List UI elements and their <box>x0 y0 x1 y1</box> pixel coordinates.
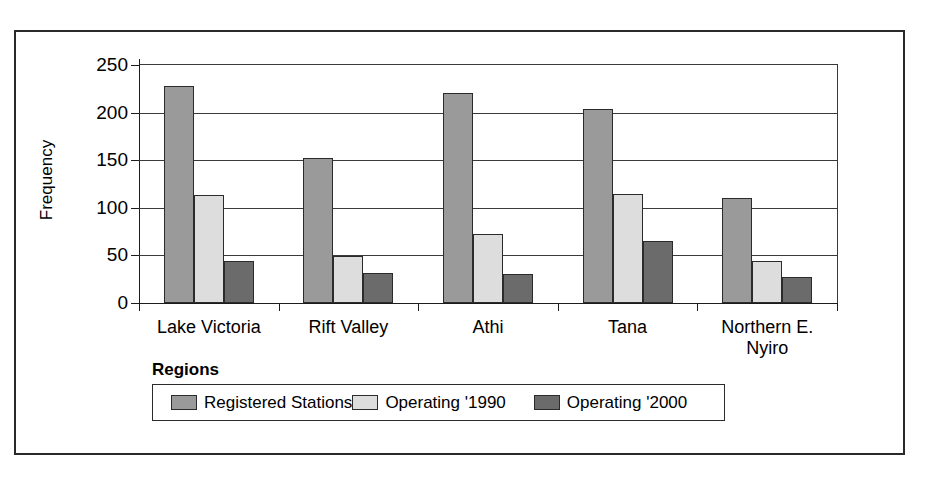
y-tick-label: 0 <box>117 293 128 312</box>
x-category-label: Tana <box>558 317 698 338</box>
bar <box>363 273 393 303</box>
bar <box>443 93 473 303</box>
plot-area: Lake VictoriaRift ValleyAthiTanaNorthern… <box>139 64 838 303</box>
bar <box>164 86 194 303</box>
y-axis-line <box>139 59 140 309</box>
y-tick-mark <box>131 208 139 209</box>
bar <box>194 195 224 303</box>
bar <box>782 277 812 303</box>
x-axis-line <box>131 303 837 304</box>
bar <box>333 256 363 303</box>
gridline <box>139 160 837 161</box>
x-tick-mark <box>279 303 280 311</box>
legend-swatch <box>352 395 378 410</box>
bar <box>722 198 752 303</box>
bar-chart: Frequency 050100150200250 Lake VictoriaR… <box>16 32 907 457</box>
legend-swatch <box>534 395 560 410</box>
legend-label: Registered Stations <box>204 394 352 411</box>
y-tick-mark <box>131 160 139 161</box>
x-tick-mark <box>697 303 698 311</box>
legend: Registered StationsOperating '1990Operat… <box>152 384 725 421</box>
bar <box>224 261 254 303</box>
legend-item: Operating '1990 <box>352 394 505 411</box>
x-category-label: Northern E. Nyiro <box>697 317 837 359</box>
y-tick-mark <box>131 303 139 304</box>
legend-label: Operating '2000 <box>567 394 687 411</box>
figure-frame: Frequency 050100150200250 Lake VictoriaR… <box>14 30 905 455</box>
legend-item: Registered Stations <box>171 394 352 411</box>
y-tick-label: 50 <box>107 245 128 264</box>
y-tick-label: 100 <box>96 197 128 216</box>
bar <box>643 241 673 303</box>
y-axis-tick-labels: 050100150200250 <box>78 54 128 302</box>
x-category-label: Rift Valley <box>279 317 419 338</box>
bar <box>752 261 782 303</box>
y-tick-label: 250 <box>96 55 128 74</box>
bar <box>613 194 643 303</box>
x-tick-mark <box>139 303 140 311</box>
y-tick-mark <box>131 255 139 256</box>
y-axis-title: Frequency <box>37 100 57 260</box>
x-category-label: Athi <box>418 317 558 338</box>
y-tick-label: 150 <box>96 150 128 169</box>
bar <box>503 274 533 303</box>
legend-label: Operating '1990 <box>385 394 505 411</box>
y-tick-mark <box>131 113 139 114</box>
y-tick-label: 200 <box>96 102 128 121</box>
bar <box>473 234 503 303</box>
x-tick-mark <box>837 303 838 311</box>
gridline <box>139 113 837 114</box>
bar <box>583 109 613 303</box>
legend-item: Operating '2000 <box>534 394 687 411</box>
y-tick-mark <box>131 65 139 66</box>
x-axis-title: Regions <box>152 360 219 380</box>
x-tick-mark <box>558 303 559 311</box>
bar <box>303 158 333 303</box>
x-category-label: Lake Victoria <box>139 317 279 338</box>
legend-swatch <box>171 395 197 410</box>
x-tick-mark <box>418 303 419 311</box>
